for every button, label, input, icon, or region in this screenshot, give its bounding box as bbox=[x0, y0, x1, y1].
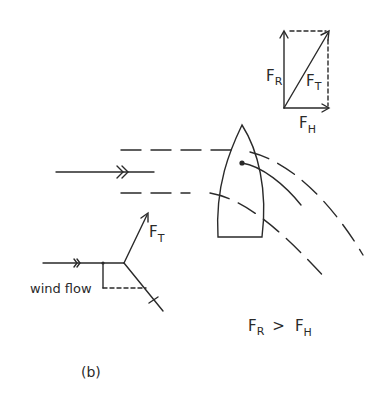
force-relation: FR>FH bbox=[248, 317, 312, 339]
label-ft-small: FT bbox=[149, 223, 165, 245]
panel-label: (b) bbox=[81, 364, 101, 380]
wind-flow-label: wind flow bbox=[30, 281, 92, 296]
sail-force-diagram: FR FT FH bbox=[0, 0, 383, 403]
label-fh: FH bbox=[299, 114, 316, 136]
force-vector-parallelogram: FR FT FH bbox=[266, 31, 329, 136]
boat-hull bbox=[218, 125, 301, 237]
sail-curve bbox=[242, 163, 301, 205]
airflow-streamlines bbox=[121, 150, 363, 280]
sail-force-detail: FT wind flow bbox=[30, 213, 165, 311]
resultant-force-arrow bbox=[284, 33, 328, 108]
relation-text: FR>FH bbox=[248, 317, 312, 339]
label-ft: FT bbox=[306, 72, 322, 93]
total-force-arrow bbox=[124, 215, 147, 263]
label-fr: FR bbox=[266, 67, 283, 88]
wind-direction-arrow bbox=[56, 166, 154, 178]
